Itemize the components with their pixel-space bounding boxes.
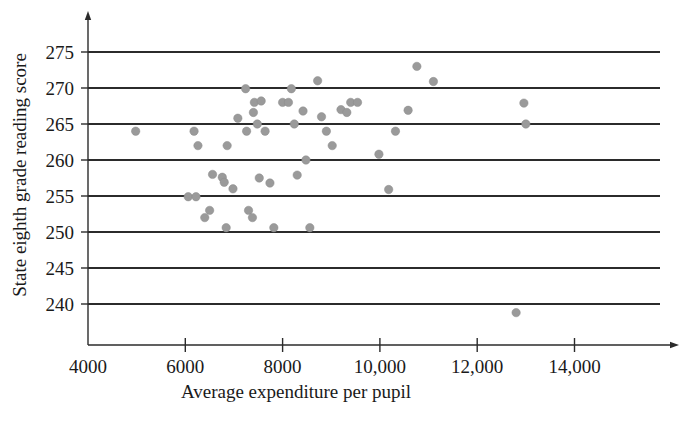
data-point <box>131 127 139 135</box>
data-point <box>222 223 230 231</box>
data-point <box>322 127 330 135</box>
data-point <box>313 77 321 85</box>
y-tick-label-275: 275 <box>46 42 75 63</box>
data-point <box>522 120 530 128</box>
y-tick-label-240: 240 <box>46 294 75 315</box>
data-point <box>353 98 361 106</box>
data-point <box>284 98 292 106</box>
y-tick-marks-group <box>81 52 93 304</box>
x-tick-label-14000: 14,000 <box>548 356 600 377</box>
y-axis-arrow-icon <box>85 11 91 20</box>
x-tick-label-12000: 12,000 <box>451 356 503 377</box>
data-point <box>201 213 209 221</box>
data-point <box>249 108 257 116</box>
data-point <box>253 120 261 128</box>
gridlines-group <box>88 52 660 304</box>
data-point <box>194 141 202 149</box>
data-point <box>229 185 237 193</box>
data-point <box>375 150 383 158</box>
data-point <box>205 206 213 214</box>
data-point <box>261 127 269 135</box>
data-point <box>413 62 421 70</box>
data-point <box>220 178 228 186</box>
data-point <box>184 193 192 201</box>
y-tick-label-255: 255 <box>46 186 75 207</box>
data-point <box>293 171 301 179</box>
data-point <box>192 193 200 201</box>
x-axis-arrow-icon <box>670 342 679 348</box>
data-point <box>512 308 520 316</box>
x-tick-labels-group: 40006000800010,00012,00014,000 <box>69 356 601 377</box>
data-point <box>306 223 314 231</box>
x-tick-label-6000: 6000 <box>166 356 204 377</box>
data-point <box>302 156 310 164</box>
y-tick-label-250: 250 <box>46 222 75 243</box>
data-point <box>290 120 298 128</box>
data-point <box>317 113 325 121</box>
data-point <box>190 127 198 135</box>
data-point <box>404 106 412 114</box>
y-axis-title: State eighth grade reading score <box>9 53 30 297</box>
y-tick-labels-group: 240245250255260265270275 <box>46 42 75 315</box>
data-point <box>257 97 265 105</box>
data-point <box>248 213 256 221</box>
x-tick-label-4000: 4000 <box>69 356 107 377</box>
data-point <box>208 170 216 178</box>
data-points-group <box>131 62 530 317</box>
data-point <box>241 85 249 93</box>
data-point <box>266 179 274 187</box>
data-point <box>429 77 437 85</box>
data-point <box>223 141 231 149</box>
data-point <box>384 185 392 193</box>
y-tick-label-265: 265 <box>46 114 75 135</box>
data-point <box>234 114 242 122</box>
data-point <box>287 85 295 93</box>
y-tick-label-270: 270 <box>46 78 75 99</box>
data-point <box>391 127 399 135</box>
x-axis-title: Average expenditure per pupil <box>181 381 411 402</box>
data-point <box>255 174 263 182</box>
plot-canvas: 40006000800010,00012,00014,000 240245250… <box>0 0 693 426</box>
x-tick-label-10000: 10,000 <box>354 356 406 377</box>
scatter-plot-figure: 40006000800010,00012,00014,000 240245250… <box>0 0 693 426</box>
x-tick-label-8000: 8000 <box>264 356 302 377</box>
data-point <box>520 99 528 107</box>
data-point <box>343 108 351 116</box>
data-point <box>270 223 278 231</box>
y-tick-label-245: 245 <box>46 258 75 279</box>
plot-frame-group <box>85 11 679 348</box>
data-point <box>299 107 307 115</box>
data-point <box>328 141 336 149</box>
y-tick-label-260: 260 <box>46 150 75 171</box>
data-point <box>242 127 250 135</box>
